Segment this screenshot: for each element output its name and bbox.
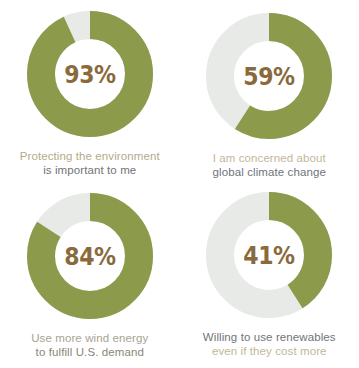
donut-svg <box>24 190 156 322</box>
chart-card-more-wind-energy: 84% Use more wind energy to fulfill U.S.… <box>0 184 180 368</box>
donut-chart-protecting-environment: 93% <box>24 8 156 140</box>
donut-svg <box>203 10 335 142</box>
chart-caption: Protecting the environment is important … <box>20 149 160 177</box>
chart-caption: I am concerned about global climate chan… <box>213 151 326 179</box>
donut-chart-willing-renewables-cost: 41% <box>203 189 335 321</box>
donut-svg <box>24 8 156 140</box>
caption-line-2: global climate change <box>213 165 326 179</box>
caption-line-2: is important to me <box>20 163 160 177</box>
donut-value-arc <box>41 25 139 123</box>
chart-card-concerned-climate-change: 59% I am concerned about global climate … <box>180 0 359 184</box>
caption-line-2: to fulfill U.S. demand <box>31 345 148 359</box>
caption-line-1: Use more wind energy <box>31 331 148 345</box>
chart-caption: Willing to use renewables even if they c… <box>203 330 336 358</box>
caption-line-1: Protecting the environment <box>20 149 160 163</box>
caption-line-1: I am concerned about <box>213 151 326 165</box>
donut-chart-concerned-climate-change: 59% <box>203 10 335 142</box>
chart-card-protecting-environment: 93% Protecting the environment is import… <box>0 0 180 184</box>
donut-chart-more-wind-energy: 84% <box>24 190 156 322</box>
donut-svg <box>203 189 335 321</box>
caption-line-1: Willing to use renewables <box>203 330 336 344</box>
caption-line-2: even if they cost more <box>203 344 336 358</box>
chart-caption: Use more wind energy to fulfill U.S. dem… <box>31 331 148 359</box>
donut-chart-grid: 93% Protecting the environment is import… <box>0 0 359 368</box>
chart-card-willing-renewables-cost: 41% Willing to use renewables even if th… <box>180 184 359 368</box>
